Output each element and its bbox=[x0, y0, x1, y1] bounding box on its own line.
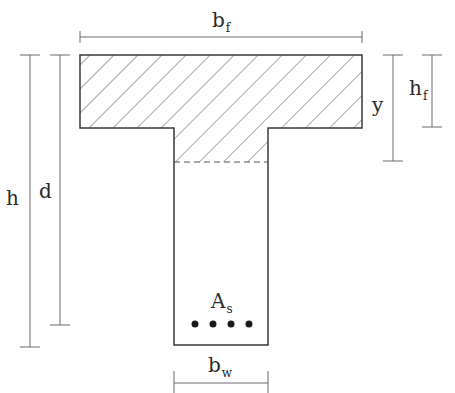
rebar-icon bbox=[228, 321, 235, 328]
compression-depth-label: y bbox=[371, 93, 384, 117]
total-height-label: h bbox=[6, 186, 19, 210]
compression-depth-dimension bbox=[383, 55, 403, 161]
flange-thickness-label: hf bbox=[409, 76, 429, 103]
compression-zone-hatch bbox=[80, 55, 362, 162]
rebar-dots bbox=[192, 321, 253, 328]
rebar-icon bbox=[210, 321, 217, 328]
web-width-label: bw bbox=[208, 353, 233, 380]
flange-width-dimension bbox=[80, 31, 362, 43]
rebar-icon bbox=[246, 321, 253, 328]
effective-depth-dimension bbox=[50, 55, 70, 325]
flange-width-label: bf bbox=[212, 8, 232, 35]
total-height-dimension bbox=[20, 55, 40, 347]
t-beam-diagram: bf h d y hf As bw bbox=[0, 0, 455, 393]
rebar-icon bbox=[192, 321, 199, 328]
steel-area-label: As bbox=[210, 289, 233, 316]
effective-depth-label: d bbox=[39, 179, 52, 203]
